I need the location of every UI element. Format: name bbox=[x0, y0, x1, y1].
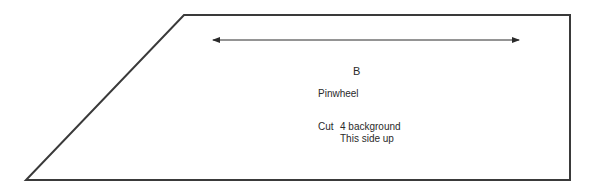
orientation-note: This side up bbox=[340, 133, 394, 145]
cut-label: Cut bbox=[318, 121, 334, 133]
piece-name: Pinwheel bbox=[318, 88, 359, 100]
cut-instruction: 4 background bbox=[340, 121, 401, 133]
piece-letter: B bbox=[353, 65, 360, 77]
pattern-piece-diagram bbox=[0, 0, 596, 192]
